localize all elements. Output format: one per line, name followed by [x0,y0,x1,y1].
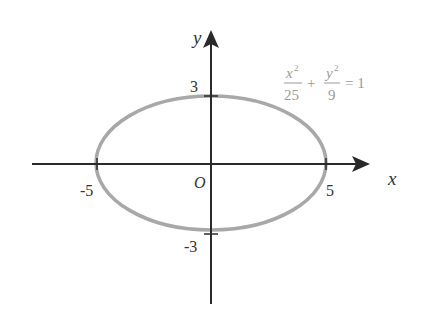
eq-y-superscript: 2 [334,63,339,73]
eq-x-superscript: 2 [294,63,299,73]
tick-label-x-pos: 5 [326,182,334,199]
origin-label: O [194,174,206,191]
tick-label-y-neg: -3 [184,238,197,255]
ellipse-equation: x 2 25 + y 2 9 = 1 [284,63,365,103]
eq-plus: + [307,75,315,91]
y-axis-label: y [191,27,202,48]
eq-x-numerator: x [285,65,293,81]
eq-equals-one: = 1 [345,75,365,91]
eq-x-denominator: 25 [284,87,299,103]
tick-label-y-pos: 3 [190,78,198,95]
eq-y-denominator: 9 [328,87,336,103]
tick-label-x-neg: -5 [80,182,93,199]
ellipse-diagram: y x O 3 -3 -5 5 x 2 25 + y 2 9 = 1 [0,0,421,311]
eq-y-numerator: y [324,65,333,81]
x-axis-label: x [387,168,397,189]
